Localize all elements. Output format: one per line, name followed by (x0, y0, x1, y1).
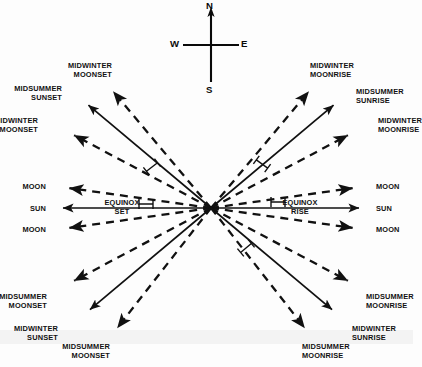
label-upper-left-2: MIDWINTER MOONSET (0, 117, 38, 134)
label-upper-left-0: MIDWINTER MOONSET (68, 62, 112, 79)
label-middle-left-1: SUN (30, 205, 46, 214)
ray-midsummer-moonset-lower (117, 208, 211, 328)
ray-midwinter-moonset-upper (113, 92, 211, 208)
compass-rose (183, 7, 239, 82)
ray-midsummer-moonset-upper (74, 208, 211, 281)
compass-label-east: E (241, 38, 247, 49)
compass-label-west: W (170, 38, 179, 49)
label-middle-left-0: MOON (22, 183, 46, 192)
ray-midwinter-moonrise-upper (211, 92, 309, 208)
label-lower-right-0: MIDSUMMER MOONRISE (366, 293, 414, 310)
label-lower-left-1: MIDWINTER SUNSET (14, 325, 58, 342)
label-upper-right-0: MIDWINTER MOONRISE (310, 62, 354, 79)
label-upper-right-1: MIDSUMMER SUNRISE (356, 88, 404, 105)
label-lower-left-0: MIDSUMMER MOONSET (0, 293, 47, 310)
compass-label-south: S (206, 84, 212, 95)
label-upper-right-2: MIDWINTER MOONRISE (378, 117, 422, 134)
label-middle-right-1: SUN (376, 205, 392, 214)
label-upper-left-1: MIDSUMMER SUNSET (14, 85, 62, 102)
ray-midsummer-moonrise-lower (211, 208, 305, 328)
compass-label-north: N (206, 0, 213, 11)
label-equinox-set: EQUINOX SET (92, 199, 152, 216)
ray-midwinter-moonset-lower (74, 135, 211, 208)
label-lower-left-2: MIDSUMMER MOONSET (62, 343, 110, 360)
label-middle-right-0: MOON (376, 183, 400, 192)
label-lower-right-2: MIDSUMMER MOONRISE (302, 343, 350, 360)
label-middle-left-2: MOON (22, 226, 46, 235)
label-equinox-rise: EQUINOX RISE (270, 199, 330, 216)
ray-midwinter-moonrise-lower (211, 135, 348, 208)
label-lower-right-1: MIDWINTER SUNRISE (352, 325, 396, 342)
label-middle-right-2: MOON (376, 226, 400, 235)
ray-midsummer-moonrise-upper (211, 208, 348, 281)
